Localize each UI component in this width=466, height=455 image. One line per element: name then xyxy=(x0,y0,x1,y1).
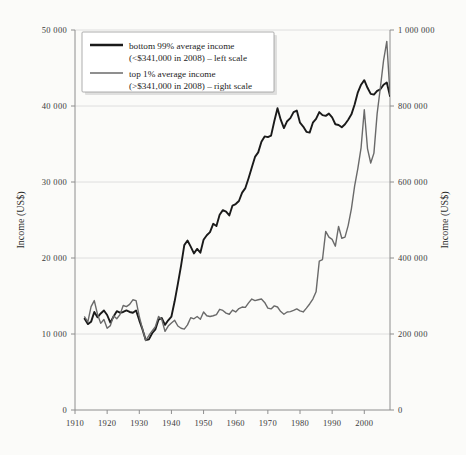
y-tick-label-right: 800 000 xyxy=(398,101,428,111)
y-axis-right-title: Income (US$) xyxy=(439,192,451,249)
y-tick-label-left: 30 000 xyxy=(42,177,67,187)
y-tick-label-left: 50 000 xyxy=(42,25,67,35)
series-path-bottom99 xyxy=(85,80,390,340)
x-tick-label: 1960 xyxy=(227,418,245,428)
x-tick-label: 1920 xyxy=(98,418,116,428)
y-tick-label-right: 200 000 xyxy=(398,329,428,339)
y-tick-label-right: 400 000 xyxy=(398,253,428,263)
x-tick-label: 1970 xyxy=(259,418,277,428)
y-tick-label-left: 0 xyxy=(62,405,67,415)
x-tick-label: 1990 xyxy=(323,418,341,428)
legend-label-top1-line2: (>$341,000 in 2008) – right scale xyxy=(129,81,252,91)
legend-label-bottom99-line1: bottom 99% average income xyxy=(129,41,234,51)
x-tick-label: 1980 xyxy=(291,418,309,428)
x-tick-label: 1950 xyxy=(194,418,212,428)
legend-label-top1-line1: top 1% average income xyxy=(129,69,215,79)
legend-label-bottom99-line2: (<$341,000 in 2008) – left scale xyxy=(129,53,247,63)
y-tick-label-right: 0 xyxy=(398,405,403,415)
x-tick-label: 1930 xyxy=(130,418,148,428)
x-tick-label: 1940 xyxy=(162,418,180,428)
y-tick-label-left: 20 000 xyxy=(42,253,67,263)
y-tick-label-left: 40 000 xyxy=(42,101,67,111)
x-tick-label: 1910 xyxy=(66,418,84,428)
y-axis-left-title: Income (US$) xyxy=(15,192,27,249)
y-tick-label-right: 1 000 000 xyxy=(398,25,435,35)
x-tick-label: 2000 xyxy=(355,418,373,428)
chart-container: 010 00020 00030 00040 00050 0000200 0004… xyxy=(0,0,466,455)
y-tick-label-left: 10 000 xyxy=(42,329,67,339)
income-chart-svg: 010 00020 00030 00040 00050 0000200 0004… xyxy=(0,0,466,455)
chart-legend: bottom 99% average income (<$341,000 in … xyxy=(82,32,277,95)
y-tick-label-right: 600 000 xyxy=(398,177,428,187)
